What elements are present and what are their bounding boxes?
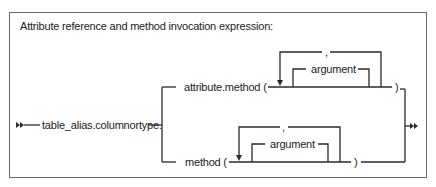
separator-label: , xyxy=(282,121,285,133)
argument-label: argument xyxy=(270,138,315,150)
branch-method: method ( , argument ) xyxy=(162,121,405,168)
method-label: method ( xyxy=(185,156,227,168)
prefix-label: table_alias.columnortype. xyxy=(42,119,162,131)
loop-arrow-icon xyxy=(277,80,283,86)
attribute-method-label: attribute.method ( xyxy=(184,81,267,93)
argument-label: argument xyxy=(311,63,356,75)
separator-label: , xyxy=(325,46,328,58)
loop-arrow-icon xyxy=(236,155,242,161)
end-double-arrow-icon xyxy=(410,123,418,129)
close-paren-label: ) xyxy=(395,81,398,93)
close-paren-label: ) xyxy=(354,156,357,168)
syntax-diagram: table_alias.columnortype. attribute.meth… xyxy=(0,0,436,187)
branch-attribute-method: attribute.method ( , argument ) xyxy=(162,46,405,93)
start-double-arrow-icon xyxy=(16,122,24,128)
